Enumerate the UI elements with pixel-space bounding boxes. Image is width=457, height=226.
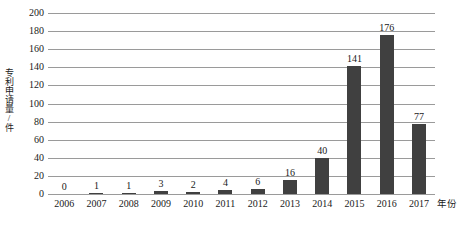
y-axis-title: 专利申请量/件 bbox=[1, 0, 17, 200]
bar bbox=[154, 191, 168, 194]
x-axis-tick-label: 2009 bbox=[151, 198, 171, 210]
y-axis-tick-labels: 020406080100120140160180200 bbox=[16, 0, 46, 200]
bar bbox=[89, 193, 103, 194]
gridline bbox=[48, 122, 435, 123]
gridline bbox=[48, 158, 435, 159]
bar-value-label: 77 bbox=[414, 111, 424, 122]
bar bbox=[315, 158, 329, 194]
gridline bbox=[48, 31, 435, 32]
bar bbox=[380, 35, 394, 194]
bar-value-label: 40 bbox=[317, 145, 327, 156]
y-axis-tick-label: 100 bbox=[29, 99, 44, 109]
bar bbox=[186, 192, 200, 194]
x-axis-tick-labels: 2006200720082009201020112012201320142015… bbox=[48, 196, 435, 214]
bar-value-label: 4 bbox=[223, 177, 228, 188]
axis-baseline bbox=[48, 194, 435, 195]
y-axis-tick-label: 0 bbox=[39, 189, 44, 199]
plot-area: 0113246164014117677 bbox=[48, 0, 435, 200]
x-axis-tick-label: 2013 bbox=[280, 198, 300, 210]
x-axis-tick-label: 2010 bbox=[183, 198, 203, 210]
x-axis-tick-label: 2017 bbox=[409, 198, 429, 210]
bar-value-label: 6 bbox=[255, 176, 260, 187]
gridline bbox=[48, 176, 435, 177]
x-axis-tick-label: 2008 bbox=[119, 198, 139, 210]
x-axis-tick-label: 2015 bbox=[344, 198, 364, 210]
x-axis-tick-label: 2014 bbox=[312, 198, 332, 210]
bar-value-label: 176 bbox=[379, 22, 394, 33]
bar bbox=[283, 180, 297, 194]
gridline bbox=[48, 49, 435, 50]
x-axis-tick-label: 2012 bbox=[248, 198, 268, 210]
bar bbox=[347, 66, 361, 194]
bar-value-label: 16 bbox=[285, 167, 295, 178]
bar-value-label: 141 bbox=[347, 53, 362, 64]
y-axis-tick-label: 20 bbox=[34, 171, 44, 181]
x-axis-title: 年份 bbox=[437, 198, 457, 210]
bar-value-label: 2 bbox=[191, 179, 196, 190]
gridline bbox=[48, 13, 435, 14]
bar-value-label: 3 bbox=[158, 178, 163, 189]
y-axis-tick-label: 200 bbox=[29, 8, 44, 18]
y-axis-tick-label: 80 bbox=[34, 117, 44, 127]
y-axis-tick-label: 140 bbox=[29, 62, 44, 72]
y-axis-tick-label: 160 bbox=[29, 44, 44, 54]
y-axis-tick-label: 40 bbox=[34, 153, 44, 163]
bar-value-label: 0 bbox=[62, 181, 67, 192]
y-axis-tick-label: 60 bbox=[34, 135, 44, 145]
x-axis-tick-label: 2007 bbox=[86, 198, 106, 210]
bar-value-label: 1 bbox=[94, 180, 99, 191]
x-axis-tick-label: 2011 bbox=[216, 198, 236, 210]
y-axis-tick-label: 180 bbox=[29, 26, 44, 36]
gridline bbox=[48, 85, 435, 86]
gridline bbox=[48, 67, 435, 68]
x-axis-tick-label: 2006 bbox=[54, 198, 74, 210]
bar bbox=[251, 189, 265, 194]
x-axis-tick-label: 2016 bbox=[377, 198, 397, 210]
bar bbox=[218, 190, 232, 194]
bar bbox=[412, 124, 426, 194]
y-axis-tick-label: 120 bbox=[29, 80, 44, 90]
gridline bbox=[48, 104, 435, 105]
bar bbox=[122, 193, 136, 194]
gridline bbox=[48, 140, 435, 141]
bar-value-label: 1 bbox=[126, 180, 131, 191]
